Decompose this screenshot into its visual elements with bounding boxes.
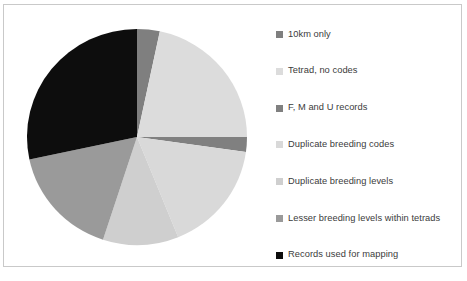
legend-color-swatch	[276, 105, 283, 112]
legend-item[interactable]: Duplicate breeding levels	[276, 174, 393, 188]
legend-item[interactable]: Duplicate breeding codes	[276, 137, 394, 151]
legend-item-label: F, M and U records	[288, 102, 367, 113]
legend-color-swatch	[276, 68, 283, 75]
legend-item[interactable]: F, M and U records	[276, 101, 367, 115]
legend-color-swatch	[276, 31, 283, 38]
legend-color-swatch	[276, 215, 283, 222]
legend-item[interactable]: 10km only	[276, 27, 331, 41]
pie-slice	[27, 29, 137, 159]
pie-slices	[27, 29, 247, 245]
legend-item-label: Duplicate breeding codes	[288, 139, 394, 150]
chart-legend: 10km onlyTetrad, no codesF, M and U reco…	[276, 27, 462, 271]
pie-svg	[22, 23, 254, 251]
legend-item-label: Records used for mapping	[288, 249, 398, 260]
legend-color-swatch	[276, 252, 283, 259]
legend-item[interactable]: Tetrad, no codes	[276, 64, 358, 78]
legend-item-label: Tetrad, no codes	[288, 65, 358, 76]
legend-item-label: Lesser breeding levels within tetrads	[288, 213, 440, 224]
legend-item[interactable]: Lesser breeding levels within tetrads	[276, 211, 440, 225]
legend-item-label: 10km only	[288, 29, 331, 40]
legend-item[interactable]: Records used for mapping	[276, 248, 398, 262]
legend-item-label: Duplicate breeding levels	[288, 176, 393, 187]
pie-chart	[22, 23, 254, 251]
legend-color-swatch	[276, 141, 283, 148]
chart-frame: 10km onlyTetrad, no codesF, M and U reco…	[3, 4, 462, 267]
legend-color-swatch	[276, 178, 283, 185]
